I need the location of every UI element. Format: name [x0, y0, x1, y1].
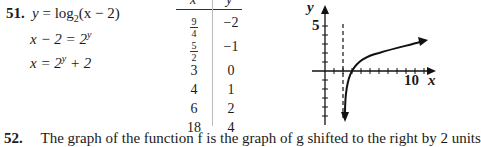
- curve-arrow-down-icon: [341, 112, 349, 122]
- eq1-arg: (x − 2): [79, 5, 120, 21]
- eq3-lhs: x = 2: [30, 55, 62, 71]
- table-cell-y: −1: [216, 39, 246, 55]
- equation-line-3: x = 2y + 2: [30, 53, 91, 72]
- log-graph: y 5 10 x: [300, 0, 441, 130]
- equation-line-2: x − 2 = 2y: [30, 29, 91, 48]
- x-axis-label: x: [428, 72, 436, 89]
- y-axis-label: y: [307, 0, 314, 16]
- eq1-lhs: y: [32, 5, 39, 21]
- table-column-divider: [212, 0, 213, 126]
- graph-svg: [300, 0, 441, 130]
- next-problem-number: 52.: [4, 130, 23, 146]
- equation-line-1: y = log2(x − 2): [32, 5, 120, 24]
- eq2-exp: y: [87, 29, 91, 40]
- table-cell-x: 94: [179, 13, 209, 38]
- table-cell-y: 2: [216, 101, 246, 117]
- eq2-lhs: x − 2 = 2: [30, 31, 87, 47]
- table-cell-x: 6: [179, 101, 209, 117]
- fraction: 52: [190, 41, 198, 62]
- table-cell-x: 4: [179, 82, 209, 98]
- table-cell-y: 0: [216, 63, 246, 79]
- table-header-divider: [176, 9, 242, 10]
- y-axis-arrow-icon: [321, 5, 329, 14]
- curve-arrow-right-icon: [418, 37, 428, 46]
- table-cell-x: 3: [179, 63, 209, 79]
- table-cell-x: 52: [179, 37, 209, 62]
- table-cell-y: −2: [216, 15, 246, 31]
- eq1-log: = log: [39, 5, 74, 21]
- table-header-x: x: [190, 0, 196, 8]
- next-problem-line: 52. The graph of the function f is the g…: [4, 130, 481, 147]
- problem-number: 51.: [6, 5, 25, 22]
- table-cell-y: 1: [216, 82, 246, 98]
- x-tick-label: 10: [404, 72, 419, 89]
- fraction: 94: [190, 17, 198, 38]
- y-tick-label: 5: [312, 17, 320, 34]
- eq3-rest: + 2: [66, 55, 91, 71]
- next-problem-text: The graph of the function f is the graph…: [41, 130, 481, 146]
- table-header-y: y: [226, 0, 232, 8]
